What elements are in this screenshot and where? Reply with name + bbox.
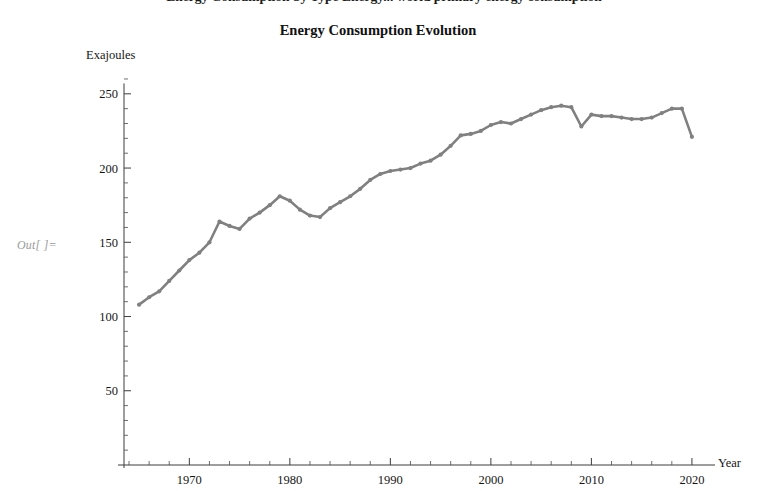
svg-text:50: 50 xyxy=(106,384,119,398)
svg-text:1990: 1990 xyxy=(378,473,403,487)
x-axis-major-ticks xyxy=(189,458,692,465)
data-series-line xyxy=(139,106,692,305)
chart-graphic: Energy Consumption Evolution Exajoules Y… xyxy=(78,18,768,491)
svg-text:1980: 1980 xyxy=(277,473,302,487)
y-axis-minor-ticks xyxy=(124,79,128,450)
x-axis-tick-labels: 197019801990200020102020 xyxy=(177,473,705,487)
plot-area: 50100150200250 197019801990200020102020 xyxy=(78,18,768,491)
svg-text:100: 100 xyxy=(99,310,118,324)
svg-text:2010: 2010 xyxy=(579,473,604,487)
svg-text:1970: 1970 xyxy=(177,473,202,487)
x-axis-minor-ticks xyxy=(129,461,672,465)
svg-text:150: 150 xyxy=(99,236,118,250)
clipped-header-text: Energy Consumption by Type Energy... wor… xyxy=(0,0,768,5)
out-cell-label: Out[ ]= xyxy=(17,238,57,253)
svg-text:200: 200 xyxy=(99,162,118,176)
svg-text:2020: 2020 xyxy=(679,473,704,487)
x-axis-group: 197019801990200020102020 xyxy=(118,458,715,487)
y-axis-tick-labels: 50100150200250 xyxy=(99,87,118,398)
svg-text:250: 250 xyxy=(99,87,118,101)
y-axis-group: 50100150200250 xyxy=(99,79,131,468)
svg-text:2000: 2000 xyxy=(478,473,503,487)
data-series-markers xyxy=(137,104,694,307)
